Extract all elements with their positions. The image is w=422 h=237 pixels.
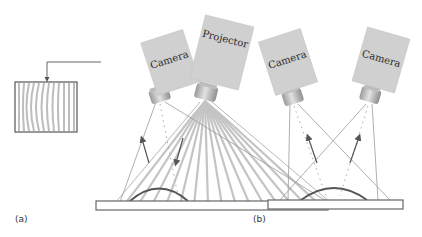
reflection-arrow-right: [350, 137, 359, 163]
camera-b-right: Camera: [352, 27, 410, 93]
base-plate-b: [268, 200, 403, 209]
camera-b-left: Camera: [258, 29, 317, 96]
structured-light-diagram: Camera Projector: [0, 0, 422, 237]
panel-a-label: (a): [15, 214, 28, 224]
camera-b-right-field-of-view: [280, 104, 378, 200]
camera-to-image-connector: [47, 62, 101, 79]
reflection-arrow-1: [142, 139, 149, 163]
panel-b-label: (b): [253, 214, 266, 224]
object-surface-b: [301, 188, 367, 200]
captured-fringe-image: [15, 82, 77, 132]
camera-a: Camera: [141, 30, 200, 96]
panel-b: Camera Camera (b): [253, 27, 410, 224]
projector: Projector: [190, 15, 254, 90]
camera-b-left-optical-axis: [294, 106, 326, 196]
connector-arrowhead: [45, 77, 50, 82]
